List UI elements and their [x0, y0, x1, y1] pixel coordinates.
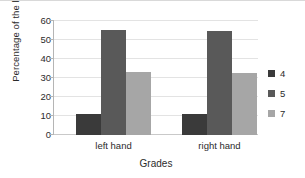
chart-legend: 457	[268, 69, 285, 118]
y-axis-tick	[49, 115, 54, 116]
y-axis-tick-label: 60	[23, 16, 51, 25]
y-axis-tick-label: 0	[23, 130, 51, 139]
y-axis-tick	[49, 58, 54, 59]
bar	[182, 114, 207, 135]
legend-item[interactable]: 5	[268, 89, 285, 98]
y-axis-tick-label: 50	[23, 35, 51, 44]
legend-label: 7	[280, 109, 285, 118]
bar-group	[76, 21, 151, 135]
y-axis-tick-label: 10	[23, 111, 51, 120]
bar	[207, 31, 232, 136]
bar	[76, 114, 101, 135]
bar	[232, 73, 257, 135]
bar	[126, 72, 151, 135]
x-axis-title: Grades	[54, 158, 258, 169]
plot-area	[54, 21, 258, 135]
bar-group	[182, 21, 257, 135]
x-axis-tick-label: left hand	[76, 140, 151, 151]
y-axis-title: Percentage of the load (%)	[10, 0, 24, 87]
y-axis-tick-label: 30	[23, 73, 51, 82]
y-axis-tick	[49, 134, 54, 135]
legend-item[interactable]: 7	[268, 109, 285, 118]
legend-item[interactable]: 4	[268, 69, 285, 78]
legend-label: 5	[280, 89, 285, 98]
y-axis-tick-label: 40	[23, 54, 51, 63]
y-axis-tick-label: 20	[23, 92, 51, 101]
y-axis-tick	[49, 20, 54, 21]
y-axis-tick	[49, 39, 54, 40]
legend-label: 4	[280, 69, 285, 78]
legend-swatch-icon	[268, 110, 275, 117]
y-axis-tick	[49, 96, 54, 97]
legend-swatch-icon	[268, 90, 275, 97]
legend-swatch-icon	[268, 70, 275, 77]
bar-chart-figure: Percentage of the load (%) 0102030405060…	[0, 0, 305, 178]
x-axis-tick-label: right hand	[182, 140, 257, 151]
bar	[101, 30, 126, 135]
y-axis-tick	[49, 77, 54, 78]
